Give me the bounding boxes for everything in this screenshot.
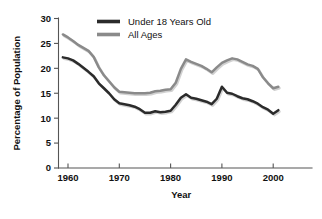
legend-label-1: All Ages <box>128 29 163 40</box>
data-series-group <box>63 34 280 115</box>
x-tick-label: 1960 <box>57 172 78 183</box>
x-tick-label: 1970 <box>109 172 130 183</box>
x-tick-label: 2000 <box>263 172 284 183</box>
x-tick-label: 1990 <box>211 172 232 183</box>
legend-label-0: Under 18 Years Old <box>128 16 211 27</box>
x-axis: 19601970198019902000 <box>57 164 312 183</box>
y-tick-label: 25 <box>40 38 51 49</box>
y-tick-label: 15 <box>40 88 51 99</box>
y-tick-label: 10 <box>40 113 51 124</box>
y-tick-label: 20 <box>40 63 51 74</box>
y-tick-label: 5 <box>46 137 52 148</box>
y-axis: 051015202530 <box>40 13 58 174</box>
y-tick-label: 0 <box>46 162 51 173</box>
line-chart: 051015202530 19601970198019902000 Under … <box>0 0 322 219</box>
chart-legend: Under 18 Years OldAll Ages <box>97 16 211 40</box>
series-line-all-ages <box>63 34 278 93</box>
x-axis-title: Year <box>171 189 191 200</box>
y-tick-label: 30 <box>40 13 51 24</box>
x-tick-label: 1980 <box>160 172 181 183</box>
chart-container: 051015202530 19601970198019902000 Under … <box>0 0 322 219</box>
y-axis-title: Percentage of Population <box>11 36 22 151</box>
